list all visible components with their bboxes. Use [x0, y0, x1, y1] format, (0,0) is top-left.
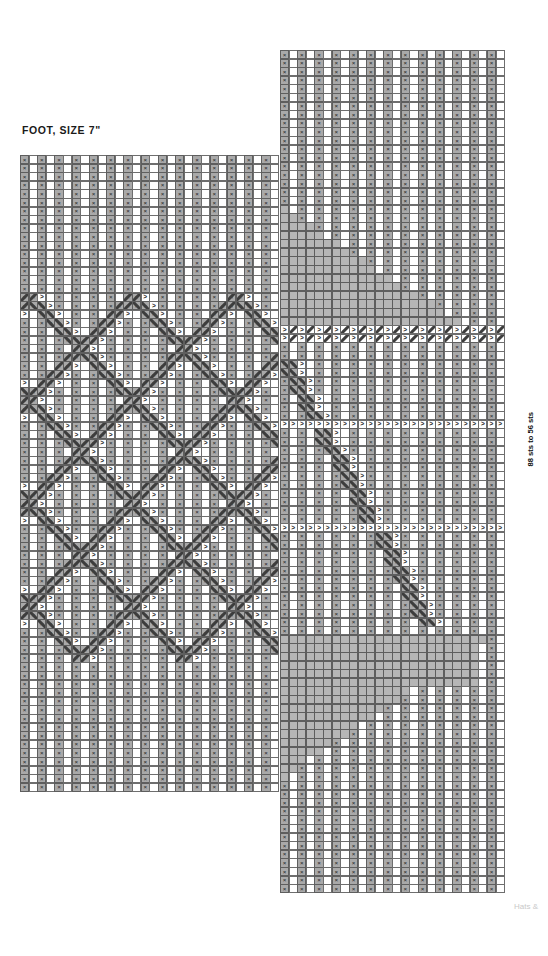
travel-right-symbol: >: [126, 414, 130, 421]
knit-symbol: ×: [335, 825, 339, 831]
knit-symbol: ×: [472, 137, 476, 143]
knit-symbol: ×: [75, 294, 79, 300]
knit-symbol: ×: [247, 638, 251, 644]
knit-symbol: ×: [283, 438, 287, 444]
knit-symbol: ×: [143, 535, 147, 541]
knit-symbol: ×: [421, 825, 425, 831]
knit-symbol: ×: [40, 165, 44, 171]
knit-symbol: ×: [161, 440, 165, 446]
knit-symbol: ×: [472, 499, 476, 505]
knit-symbol: ×: [109, 303, 113, 309]
knit-symbol: ×: [490, 877, 494, 883]
knit-symbol: ×: [143, 707, 147, 713]
travel-right-symbol: >: [49, 595, 53, 602]
knit-symbol: ×: [195, 586, 199, 592]
knit-symbol: ×: [472, 765, 476, 771]
knit-symbol: ×: [300, 490, 304, 496]
knit-symbol: ×: [403, 51, 407, 57]
knit-symbol: ×: [438, 877, 442, 883]
knit-symbol: ×: [317, 172, 321, 178]
knit-symbol: ×: [300, 430, 304, 436]
travel-right-symbol: >: [300, 361, 304, 368]
knit-symbol: ×: [386, 714, 390, 720]
knit-symbol: ×: [212, 724, 216, 730]
knit-symbol: ×: [178, 260, 182, 266]
knit-symbol: ×: [352, 361, 356, 367]
knit-symbol: ×: [490, 112, 494, 118]
knit-symbol: ×: [403, 86, 407, 92]
knit-symbol: ×: [490, 602, 494, 608]
knit-symbol: ×: [300, 817, 304, 823]
knit-symbol: ×: [335, 206, 339, 212]
knit-symbol: ×: [57, 750, 61, 756]
knit-symbol: ×: [92, 784, 96, 790]
travel-right-symbol: >: [255, 509, 259, 516]
knit-symbol: ×: [472, 395, 476, 401]
knit-symbol: ×: [23, 242, 27, 248]
knit-symbol: ×: [23, 552, 27, 558]
knit-symbol: ×: [490, 499, 494, 505]
knit-symbol: ×: [490, 800, 494, 806]
knit-symbol: ×: [143, 251, 147, 257]
travel-right-symbol: >: [334, 326, 338, 333]
travel-right-symbol: >: [49, 612, 53, 619]
knit-symbol: ×: [283, 782, 287, 788]
knit-symbol: ×: [352, 576, 356, 582]
knit-symbol: ×: [178, 724, 182, 730]
knit-symbol: ×: [126, 457, 130, 463]
knit-symbol: ×: [178, 690, 182, 696]
knit-symbol: ×: [352, 86, 356, 92]
knit-symbol: ×: [247, 337, 251, 343]
knit-symbol: ×: [490, 258, 494, 264]
knit-symbol: ×: [161, 509, 165, 515]
knit-symbol: ×: [161, 500, 165, 506]
knit-symbol: ×: [472, 877, 476, 883]
knit-symbol: ×: [386, 851, 390, 857]
knit-symbol: ×: [455, 103, 459, 109]
knit-symbol: ×: [352, 533, 356, 539]
knit-symbol: ×: [386, 206, 390, 212]
knit-symbol: ×: [40, 225, 44, 231]
knit-symbol: ×: [212, 217, 216, 223]
travel-right-symbol: >: [49, 492, 53, 499]
knit-symbol: ×: [490, 223, 494, 229]
travel-right-symbol: >: [74, 466, 78, 473]
travel-right-symbol: >: [334, 438, 338, 445]
knit-symbol: ×: [317, 499, 321, 505]
knit-symbol: ×: [75, 303, 79, 309]
knit-symbol: ×: [75, 586, 79, 592]
knit-symbol: ×: [455, 499, 459, 505]
knit-symbol: ×: [230, 535, 234, 541]
knit-symbol: ×: [352, 843, 356, 849]
knit-symbol: ×: [317, 163, 321, 169]
knit-symbol: ×: [300, 516, 304, 522]
knit-symbol: ×: [178, 268, 182, 274]
knit-symbol: ×: [283, 576, 287, 582]
knit-symbol: ×: [161, 595, 165, 601]
knit-symbol: ×: [126, 690, 130, 696]
travel-right-symbol: >: [117, 371, 121, 378]
knit-symbol: ×: [386, 464, 390, 470]
knit-symbol: ×: [317, 843, 321, 849]
knit-symbol: ×: [92, 750, 96, 756]
knit-symbol: ×: [403, 481, 407, 487]
knit-symbol: ×: [126, 664, 130, 670]
knit-symbol: ×: [490, 645, 494, 651]
knit-symbol: ×: [317, 146, 321, 152]
travel-right-symbol: >: [212, 569, 216, 576]
travel-right-symbol: >: [421, 335, 425, 342]
knit-symbol: ×: [352, 765, 356, 771]
knit-symbol: ×: [455, 593, 459, 599]
knit-symbol: ×: [23, 526, 27, 532]
knit-symbol: ×: [300, 447, 304, 453]
knit-symbol: ×: [369, 542, 373, 548]
knit-symbol: ×: [403, 241, 407, 247]
travel-right-symbol: >: [221, 629, 225, 636]
footer-credit: Hats &: [514, 902, 538, 911]
knit-symbol: ×: [126, 234, 130, 240]
knit-symbol: ×: [57, 208, 61, 214]
knit-symbol: ×: [490, 559, 494, 565]
knit-symbol: ×: [455, 387, 459, 393]
travel-right-symbol: >: [386, 421, 390, 428]
knit-symbol: ×: [352, 413, 356, 419]
